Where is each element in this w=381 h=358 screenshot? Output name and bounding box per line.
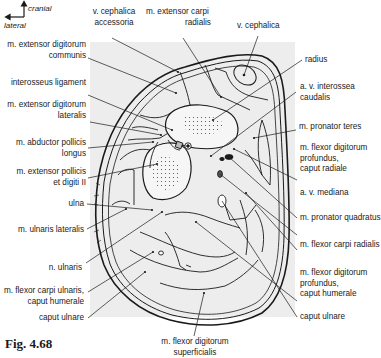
label-m-flexor-digitorum-profundus-caput-humerale: m. flexor digitorumprofundus,caput humer… bbox=[300, 268, 367, 300]
label-caput-ulnare-right: caput ulnare bbox=[300, 312, 345, 323]
label-m-extensor-digitorum-communis: m. extensor digitorumcommunis bbox=[0, 40, 86, 61]
figure-caption: Fig. 4.68 bbox=[5, 336, 52, 352]
label-v-cephalica-accessoria: v. cephalicaaccessoria bbox=[80, 7, 148, 28]
label-n-ulnaris: n. ulnaris bbox=[0, 263, 82, 274]
label-a-v-mediana: a. v. mediana bbox=[300, 188, 349, 199]
label-v-cephalica: v. cephalica bbox=[237, 21, 280, 32]
label-m-flexor-carpi-ulnaris-caput-humerale: m. flexor carpi ulnaris,caput humerale bbox=[0, 286, 84, 307]
label-m-pronator-teres: m. pronator teres bbox=[299, 122, 361, 133]
label-m-flexor-carpi-radialis: m. flexor carpi radialis bbox=[300, 240, 380, 251]
label-m-extensor-carpi-radialis: m. extensor carpiradialis bbox=[146, 7, 226, 28]
label-m-flexor-digitorum-profundus-caput-radiale: m. flexor digitorumprofundus,caput radia… bbox=[300, 143, 367, 175]
label-m-abductor-pollicis-longus: m. abductor pollicislongus bbox=[0, 138, 86, 159]
label-radius: radius bbox=[305, 55, 327, 66]
label-ulna: ulna bbox=[0, 199, 84, 210]
label-m-extensor-pollicis-et-digiti-ii: m. extensor polliciset digiti II bbox=[0, 167, 86, 188]
orientation-arrows-icon bbox=[6, 2, 27, 20]
label-m-extensor-digitorum-lateralis: m. extensor digitorumlateralis bbox=[0, 100, 86, 121]
label-interosseus-ligament: interosseus ligament bbox=[0, 78, 86, 89]
orientation-lateral-label: lateral bbox=[4, 21, 26, 30]
label-m-pronator-quadratus: m. pronator quadratus bbox=[300, 213, 381, 224]
label-a-v-interossea-caudalis: a. v. interosseacaudalis bbox=[300, 82, 355, 103]
label-caput-ulnare-left: caput ulnare bbox=[0, 313, 84, 324]
label-m-flexor-digitorum-superficialis: m. flexor digitorumsuperficialis bbox=[145, 337, 245, 358]
label-m-ulnaris-lateralis: m. ulnaris lateralis bbox=[0, 225, 84, 236]
orientation-cranial-label: cranial bbox=[28, 4, 52, 13]
